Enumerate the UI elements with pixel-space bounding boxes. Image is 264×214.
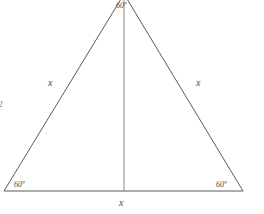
triangle-left-side [4, 0, 124, 191]
left-edge-clipped-label: 2 [0, 100, 3, 109]
triangle-right-side [124, 0, 243, 191]
geometry-figure: 60º 60º 60º x x x 2 [0, 0, 264, 214]
right-side-length-label: x [196, 78, 200, 88]
bottom-right-angle-label: 60º [216, 181, 226, 189]
apex-angle-label: 60º [116, 2, 126, 10]
bottom-left-angle-label: 60º [14, 181, 24, 189]
base-length-label: x [119, 198, 123, 208]
left-side-length-label: x [48, 78, 52, 88]
